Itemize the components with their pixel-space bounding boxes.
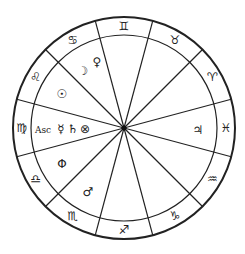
sign-gemini-icon: ♊︎: [119, 19, 130, 33]
planet-venus-icon: ♀︎: [93, 55, 102, 69]
sign-taurus-icon: ♉︎: [170, 33, 181, 47]
house-divider-line: [95, 128, 124, 235]
planet-ascendant-icon: Asc: [34, 125, 51, 135]
sign-libra-icon: ♎︎: [30, 172, 41, 186]
sign-cancer-icon: ♋︎: [68, 33, 79, 47]
planet-phi-icon: Φ︎: [57, 157, 66, 171]
sign-sagittarius-icon: ♐︎: [119, 223, 130, 237]
sign-capricorn-icon: ♑︎: [170, 209, 181, 223]
house-divider-line: [124, 21, 153, 128]
house-divider-line: [124, 50, 202, 128]
planet-mars-icon: ♂︎: [83, 185, 94, 199]
sign-pisces-icon: ♓︎: [221, 121, 232, 135]
sign-aquarius-icon: ♒︎: [207, 172, 218, 186]
house-divider-line: [124, 128, 202, 206]
sign-virgo-icon: ♍︎: [17, 121, 28, 135]
planet-saturn-icon: ♄︎: [68, 122, 79, 136]
house-divider-line: [124, 128, 153, 235]
sign-aries-icon: ♈︎: [207, 70, 218, 84]
planet-mercury-icon: ☿︎: [57, 122, 64, 136]
sign-leo-icon: ♌︎: [30, 70, 41, 84]
house-divider-line: [124, 99, 231, 128]
planet-jupiter-icon: ♃︎: [193, 123, 204, 137]
astrology-chart-wheel: ♊︎♉︎♈︎♓︎♒︎♑︎♐︎♏︎♎︎♍︎♌︎♋︎ ☽︎♀︎☉︎Asc☿︎♄︎⊗︎…: [0, 0, 245, 254]
sign-scorpio-icon: ♏︎: [68, 209, 79, 223]
house-divider-line: [124, 128, 231, 157]
center-hub: [122, 126, 127, 131]
planet-part-of-fortune-icon: ⊗︎: [80, 122, 90, 136]
house-divider-line: [95, 21, 124, 128]
planet-moon-icon: ☽︎: [78, 64, 89, 78]
planet-sun-icon: ☉︎: [57, 87, 68, 101]
